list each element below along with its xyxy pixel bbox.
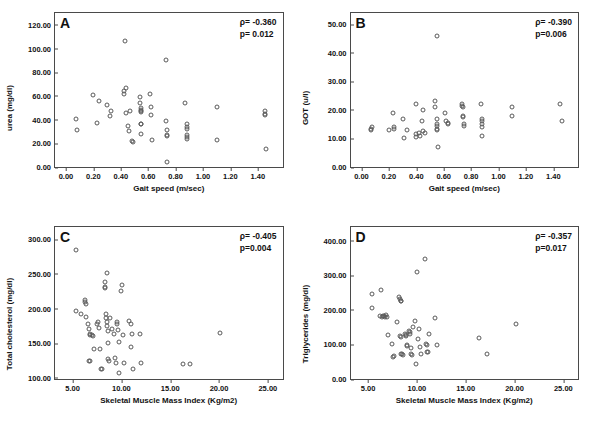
x-axis-tick: 25.00 <box>554 379 573 393</box>
y-axis-tick: 100.00 <box>324 340 351 349</box>
data-point <box>370 125 375 130</box>
data-point <box>187 362 192 367</box>
x-axis-tick: 0.60 <box>436 167 451 181</box>
data-point <box>386 127 391 132</box>
panel-a-x-axis-label: Gait speed (m/sec) <box>55 184 283 193</box>
x-axis-tick: 0.00 <box>59 167 74 181</box>
data-point <box>369 306 374 311</box>
x-axis-tick: 5.00 <box>361 379 376 393</box>
panel-c: Total cholesterol (mg/dl) C ρ= -0.405 p=… <box>0 216 296 432</box>
data-point <box>121 332 126 337</box>
data-point <box>102 279 107 284</box>
x-axis-tick: 1.20 <box>519 167 534 181</box>
data-point <box>384 314 389 319</box>
x-axis-tick: 15.00 <box>456 379 475 393</box>
y-axis-tick: 100.00 <box>28 373 55 382</box>
data-point <box>137 332 142 337</box>
y-axis-tick: 20.00 <box>32 139 55 148</box>
y-axis-tick: 30.00 <box>328 77 351 86</box>
data-point <box>460 105 465 110</box>
y-axis-tick: 40.00 <box>328 48 351 57</box>
data-point <box>105 103 110 108</box>
x-axis-tick: 1.20 <box>223 167 238 181</box>
data-point <box>415 337 420 342</box>
data-point <box>460 115 465 120</box>
x-axis-tick: 5.00 <box>65 379 80 393</box>
data-point <box>421 107 426 112</box>
data-point <box>425 350 430 355</box>
data-point <box>183 101 188 106</box>
data-point <box>426 332 431 337</box>
data-point <box>443 110 448 115</box>
data-point <box>184 136 189 141</box>
x-axis-tick: 0.60 <box>141 167 156 181</box>
data-point <box>106 359 111 364</box>
data-point <box>414 102 419 107</box>
x-axis-tick: 0.00 <box>354 167 369 181</box>
data-point <box>74 128 79 133</box>
panel-a-y-axis-label: urea (mg/dl) <box>5 85 14 131</box>
y-axis-tick: 200.00 <box>324 305 351 314</box>
data-point <box>97 347 102 352</box>
data-point <box>422 256 427 261</box>
data-point <box>116 327 121 332</box>
data-point <box>389 342 394 347</box>
data-point <box>435 343 440 348</box>
data-point <box>121 92 126 97</box>
data-point <box>378 287 383 292</box>
panel-b-plot-frame: B ρ= -0.390 p=0.006 0.0010.0020.0030.004… <box>350 12 580 168</box>
data-point <box>445 122 450 127</box>
data-point <box>95 121 100 126</box>
data-point <box>392 353 397 358</box>
panel-a-plot-frame: A ρ= -0.360 p= 0.012 0.0020.0040.0060.00… <box>54 12 284 168</box>
panel-c-x-axis-label: Skeletal Muscle Mass Index (Kg/m2) <box>55 396 283 405</box>
data-point <box>96 325 101 330</box>
y-axis-tick: 300.00 <box>28 235 55 244</box>
data-point <box>417 344 422 349</box>
y-axis-tick: 150.00 <box>28 339 55 348</box>
scatter-figure: urea (mg/dl) A ρ= -0.360 p= 0.012 0.0020… <box>0 0 591 432</box>
data-point <box>218 330 223 335</box>
data-point <box>104 271 109 276</box>
data-point <box>122 39 127 44</box>
data-point <box>480 125 485 130</box>
data-point <box>401 352 406 357</box>
data-point <box>478 102 483 107</box>
data-point <box>412 318 417 323</box>
data-point <box>513 322 518 327</box>
x-axis-tick: 15.00 <box>161 379 180 393</box>
panel-d-plot-frame: D ρ= -0.357 p=0.017 0.00100.00200.00300.… <box>350 226 580 380</box>
y-axis-tick: 120.00 <box>28 20 55 29</box>
data-point <box>433 315 438 320</box>
data-point <box>477 335 482 340</box>
data-point <box>400 116 405 121</box>
data-point <box>120 283 125 288</box>
data-point <box>109 326 114 331</box>
x-axis-tick: 0.40 <box>409 167 424 181</box>
data-point <box>184 126 189 131</box>
data-point <box>117 340 122 345</box>
data-point <box>558 102 563 107</box>
data-point <box>413 361 418 366</box>
data-point <box>84 301 89 306</box>
panel-d-x-axis-label: Skeletal Muscle Mass Index (Kg/m2) <box>351 396 579 405</box>
data-point <box>102 285 107 290</box>
data-point <box>165 159 170 164</box>
data-point <box>113 361 118 366</box>
data-point <box>418 351 423 356</box>
data-point <box>264 146 269 151</box>
data-point <box>408 332 413 337</box>
data-point <box>390 110 395 115</box>
data-point <box>180 362 185 367</box>
data-point <box>105 341 110 346</box>
y-axis-tick: 100.00 <box>28 44 55 53</box>
y-axis-tick: 50.00 <box>328 20 351 29</box>
panel-b: GOT (u/l) B ρ= -0.390 p=0.006 0.0010.002… <box>296 0 591 216</box>
x-axis-tick: 0.40 <box>113 167 128 181</box>
data-point <box>139 109 144 114</box>
y-axis-tick: 0.00 <box>332 375 351 384</box>
data-point <box>86 321 91 326</box>
x-axis-tick: 0.20 <box>86 167 101 181</box>
data-point <box>138 361 143 366</box>
data-point <box>95 320 100 325</box>
